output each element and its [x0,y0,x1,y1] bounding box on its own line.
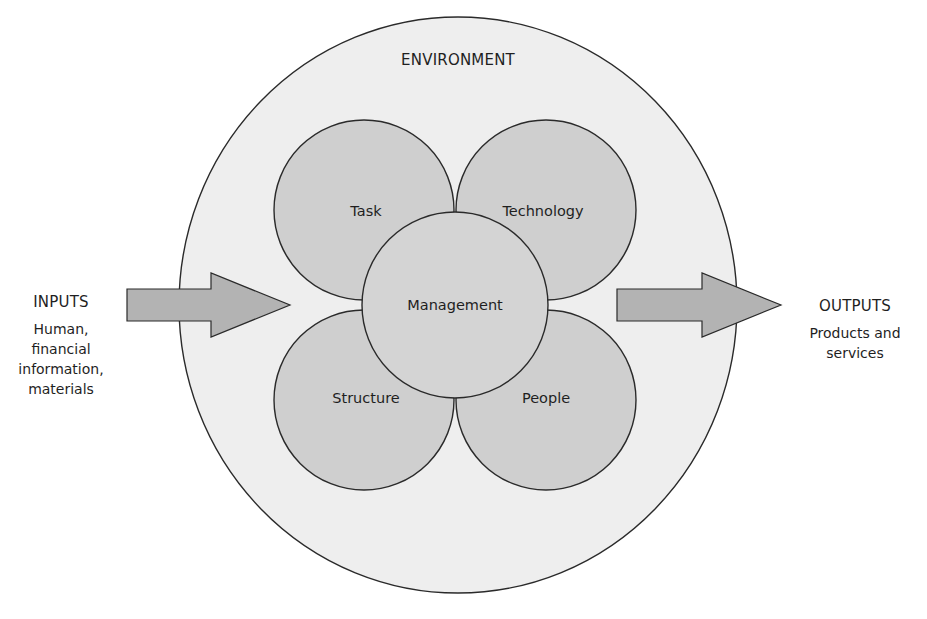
structure-label: Structure [332,390,399,406]
people-label: People [522,390,570,406]
outputs-line: Products and [809,323,900,343]
task-label: Task [350,203,381,219]
inputs-heading: INPUTS [18,293,103,311]
environment-label: ENVIRONMENT [401,51,515,69]
outputs-block: OUTPUTS Products and services [809,297,900,363]
management-label: Management [407,297,503,313]
inputs-line: financial [18,339,103,359]
outputs-heading: OUTPUTS [809,297,900,315]
inputs-block: INPUTS Human, financial information, mat… [18,293,103,399]
technology-label: Technology [502,203,583,219]
inputs-line: materials [18,379,103,399]
outputs-line: services [809,343,900,363]
inputs-line: information, [18,359,103,379]
inputs-line: Human, [18,319,103,339]
